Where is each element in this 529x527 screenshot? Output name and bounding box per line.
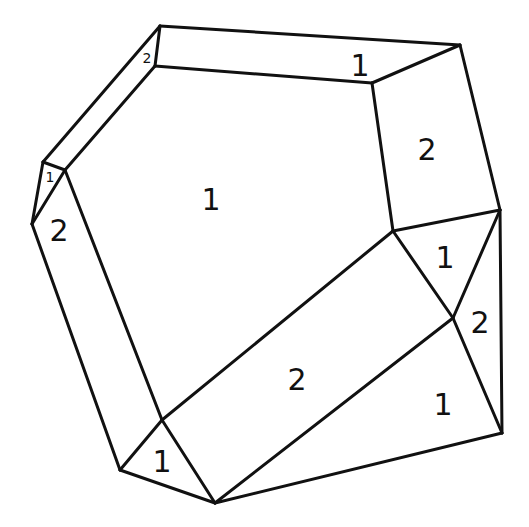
edge-HM xyxy=(500,210,502,433)
crystal-edges xyxy=(32,26,502,503)
face-label: 1 xyxy=(435,243,454,273)
edge-DI xyxy=(372,83,393,231)
face-label: 1 xyxy=(46,170,55,184)
face-label: 1 xyxy=(152,447,171,477)
face-label: 1 xyxy=(350,51,369,81)
face-label: 1 xyxy=(201,185,220,215)
edge-AE xyxy=(43,26,160,162)
face-label: 2 xyxy=(287,365,306,395)
edge-CD xyxy=(155,66,372,83)
face-label: 2 xyxy=(143,51,152,65)
edge-AB xyxy=(160,26,460,45)
edge-BH xyxy=(460,45,500,210)
face-label: 2 xyxy=(470,308,489,338)
edge-BD xyxy=(372,45,460,83)
edge-IH xyxy=(393,210,500,231)
edge-FK xyxy=(65,170,162,420)
edge-HJ xyxy=(453,210,500,318)
face-label: 2 xyxy=(417,135,436,165)
edge-GL xyxy=(32,224,120,470)
face-label: 2 xyxy=(49,216,68,246)
face-label: 1 xyxy=(433,390,452,420)
edge-CF xyxy=(65,66,155,170)
